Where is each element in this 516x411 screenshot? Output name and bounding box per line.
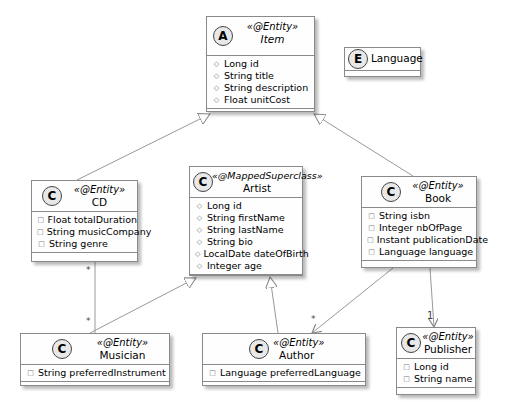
edge-author-artist bbox=[270, 277, 278, 333]
class-artist[interactable]: C «@MappedSuperclass» Artist ◇Long id ◇S… bbox=[189, 166, 303, 276]
protected-field-icon: ◇ bbox=[212, 58, 221, 70]
stereotype: «@Entity» bbox=[76, 337, 169, 349]
class-name: Musician bbox=[76, 349, 169, 362]
class-cd[interactable]: C «@Entity» CD □Float totalDuration □Str… bbox=[31, 180, 138, 262]
stereotype: «@Entity» bbox=[62, 184, 137, 196]
attribute: □String name bbox=[402, 373, 475, 385]
attribute: ◇LocalDate dateOfBirth bbox=[195, 248, 302, 260]
protected-field-icon: ◇ bbox=[195, 224, 204, 236]
private-field-icon: □ bbox=[37, 238, 46, 250]
protected-field-icon: ◇ bbox=[212, 94, 221, 106]
attribute-list: □Long id □String name bbox=[397, 359, 475, 388]
attribute: ◇Long id bbox=[212, 58, 314, 70]
protected-field-icon: ◇ bbox=[212, 70, 221, 82]
attribute: ◇String bio bbox=[195, 236, 302, 248]
stereotype: «@Entity» bbox=[231, 21, 314, 33]
stereotype: «@Entity» bbox=[273, 337, 365, 349]
class-diagram: * * * 1 A «@Entity» Item ◇Long id ◇Strin… bbox=[0, 0, 516, 411]
class-name: Language bbox=[371, 52, 423, 65]
attribute: □String musicCompany bbox=[37, 226, 137, 238]
private-field-icon: □ bbox=[402, 373, 411, 385]
class-badge-icon: C bbox=[401, 333, 421, 353]
class-musician[interactable]: C «@Entity» Musician □String preferredIn… bbox=[20, 333, 170, 386]
stereotype: «@Entity» bbox=[400, 180, 476, 192]
protected-field-icon: ◇ bbox=[212, 82, 221, 94]
class-name: CD bbox=[62, 196, 137, 209]
protected-field-icon: ◇ bbox=[195, 236, 204, 248]
class-header: E Language bbox=[345, 48, 420, 71]
multiplicity-label: * bbox=[86, 265, 91, 275]
attribute: ◇Float unitCost bbox=[212, 94, 314, 106]
attribute: □String genre bbox=[37, 238, 137, 250]
attribute: ◇String firstName bbox=[195, 212, 302, 224]
attribute: ◇String lastName bbox=[195, 224, 302, 236]
multiplicity-label: * bbox=[311, 314, 316, 324]
class-name: Publisher bbox=[421, 343, 475, 356]
attribute-list: □String preferredInstrument bbox=[21, 365, 169, 382]
class-badge-icon: C bbox=[193, 172, 213, 192]
attribute-list: □String isbn □Integer nbOfPage □Instant … bbox=[362, 208, 476, 261]
protected-field-icon: ◇ bbox=[195, 200, 204, 212]
private-field-icon: □ bbox=[367, 234, 374, 246]
attribute: □Integer nbOfPage bbox=[367, 222, 476, 234]
class-badge-icon: C bbox=[42, 186, 62, 206]
class-header: C «@Entity» Author bbox=[203, 334, 365, 365]
class-name: Author bbox=[273, 349, 365, 362]
class-name: Item bbox=[231, 33, 314, 46]
multiplicity-label: * bbox=[86, 316, 91, 326]
attribute: ◇Long id bbox=[195, 200, 302, 212]
class-author[interactable]: C «@Entity» Author □Language preferredLa… bbox=[202, 333, 366, 386]
class-language[interactable]: E Language bbox=[344, 47, 421, 77]
protected-field-icon: ◇ bbox=[195, 248, 200, 260]
class-header: C «@Entity» CD bbox=[32, 181, 137, 212]
attribute: □Language preferredLanguage bbox=[208, 367, 365, 379]
attribute-list: □Language preferredLanguage bbox=[203, 365, 365, 382]
enum-badge-icon: E bbox=[348, 49, 368, 69]
edge-book-item bbox=[314, 114, 413, 176]
class-header: C «@Entity» Publisher bbox=[397, 328, 475, 359]
private-field-icon: □ bbox=[208, 367, 217, 379]
protected-field-icon: ◇ bbox=[195, 260, 204, 272]
private-field-icon: □ bbox=[26, 367, 35, 379]
private-field-icon: □ bbox=[37, 226, 44, 238]
private-field-icon: □ bbox=[367, 222, 376, 234]
class-book[interactable]: C «@Entity» Book □String isbn □Integer n… bbox=[361, 176, 477, 268]
method-list bbox=[397, 388, 475, 394]
attribute-list: ◇Long id ◇String title ◇String descripti… bbox=[207, 56, 314, 109]
attribute: ◇Integer age bbox=[195, 260, 302, 272]
abstract-class-badge-icon: A bbox=[213, 26, 233, 46]
attribute-list: □Float totalDuration □String musicCompan… bbox=[32, 212, 137, 253]
attribute: □String isbn bbox=[367, 210, 476, 222]
stereotype: «@Entity» bbox=[421, 331, 475, 343]
class-publisher[interactable]: C «@Entity» Publisher □Long id □String n… bbox=[396, 327, 476, 395]
attribute: □Instant publicationDate bbox=[367, 234, 476, 246]
method-list bbox=[203, 382, 365, 388]
method-list bbox=[362, 261, 476, 267]
attribute: □Language language bbox=[367, 246, 476, 258]
protected-field-icon: ◇ bbox=[195, 212, 204, 224]
class-name: Book bbox=[400, 192, 476, 205]
class-item[interactable]: A «@Entity» Item ◇Long id ◇String title … bbox=[206, 16, 315, 112]
private-field-icon: □ bbox=[367, 210, 376, 222]
class-header: C «@MappedSuperclass» Artist bbox=[190, 167, 302, 198]
attribute: □Float totalDuration bbox=[37, 214, 137, 226]
class-header: A «@Entity» Item bbox=[207, 17, 314, 56]
attribute-list: ◇Long id ◇String firstName ◇String lastN… bbox=[190, 198, 302, 275]
attribute: ◇String title bbox=[212, 70, 314, 82]
method-list bbox=[207, 109, 314, 115]
private-field-icon: □ bbox=[402, 361, 411, 373]
stereotype: «@MappedSuperclass» bbox=[212, 170, 302, 182]
class-badge-icon: C bbox=[249, 339, 269, 359]
method-list bbox=[32, 253, 137, 259]
edge-book-author bbox=[312, 268, 393, 333]
edge-musician-artist bbox=[90, 278, 196, 333]
multiplicity-label: 1 bbox=[427, 310, 433, 321]
class-badge-icon: C bbox=[52, 339, 72, 359]
method-list bbox=[21, 382, 169, 388]
class-name: Artist bbox=[212, 182, 302, 195]
class-header: C «@Entity» Musician bbox=[21, 334, 169, 365]
private-field-icon: □ bbox=[367, 246, 376, 258]
class-badge-icon: C bbox=[381, 182, 401, 202]
method-list bbox=[190, 275, 302, 281]
attribute: □String preferredInstrument bbox=[26, 367, 169, 379]
